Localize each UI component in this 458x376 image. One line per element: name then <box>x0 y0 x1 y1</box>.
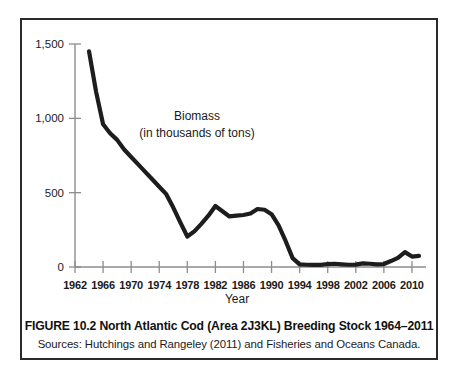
chart-plot-area: 05001,0001,500 1962196619701974197819821… <box>22 20 436 306</box>
series-line-0 <box>89 51 419 264</box>
x-tick-label-1990: 1990 <box>260 279 284 291</box>
x-tick-label-1982: 1982 <box>204 279 228 291</box>
annotation-biomass-label: Biomass <box>174 109 220 123</box>
x-tick-label-1962: 1962 <box>63 279 87 291</box>
x-axis-title: Year <box>225 292 249 306</box>
y-tick-label-500: 500 <box>45 187 64 199</box>
caption-title: FIGURE 10.2 North Atlantic Cod (Area 2J3… <box>22 318 436 334</box>
x-tick-label-1998: 1998 <box>316 279 340 291</box>
x-tick-label-2002: 2002 <box>344 279 368 291</box>
x-tick-label-1978: 1978 <box>175 279 199 291</box>
x-tick-label-2010: 2010 <box>400 279 424 291</box>
figure-caption: FIGURE 10.2 North Atlantic Cod (Area 2J3… <box>22 318 436 352</box>
y-tick-label-1000: 1,000 <box>35 112 64 124</box>
figure-frame: 05001,0001,500 1962196619701974197819821… <box>20 18 438 360</box>
annotation-biomass-units: (in thousands of tons) <box>139 126 254 140</box>
x-tick-label-1974: 1974 <box>147 279 172 291</box>
x-tick-label-1994: 1994 <box>288 279 313 291</box>
biomass-line-chart: 05001,0001,500 1962196619701974197819821… <box>22 20 436 306</box>
x-tick-label-1966: 1966 <box>91 279 115 291</box>
x-tick-label-1970: 1970 <box>119 279 143 291</box>
data-series-group <box>89 51 419 264</box>
y-tick-label-1500: 1,500 <box>35 38 64 50</box>
x-tick-label-1986: 1986 <box>232 279 256 291</box>
y-tick-label-0: 0 <box>58 261 64 273</box>
y-axis: 05001,0001,500 <box>35 38 81 273</box>
x-tick-label-2006: 2006 <box>372 279 396 291</box>
caption-sources: Sources: Hutchings and Rangeley (2011) a… <box>22 337 436 352</box>
